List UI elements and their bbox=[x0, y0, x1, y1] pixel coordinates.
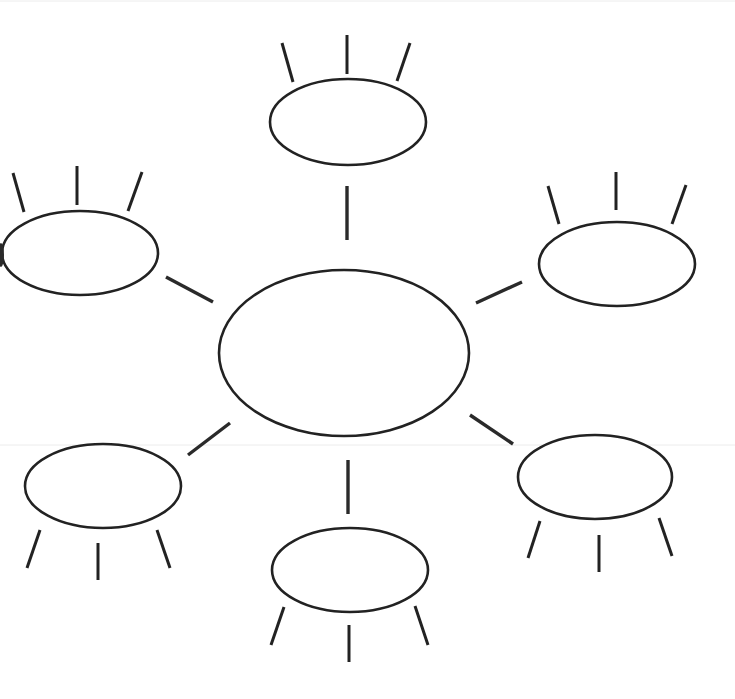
bubble-lower-left-oval[interactable] bbox=[25, 444, 181, 528]
spoke-top-1 bbox=[282, 43, 293, 82]
bubble-lower-right[interactable] bbox=[518, 435, 672, 519]
center-bubble-oval[interactable] bbox=[219, 270, 469, 436]
spoke-upper-left-3 bbox=[128, 172, 142, 211]
bubble-lower-left[interactable] bbox=[25, 444, 181, 528]
connector-upper-right bbox=[476, 282, 522, 303]
bubble-top[interactable] bbox=[270, 79, 426, 165]
center-bubble[interactable] bbox=[219, 270, 469, 436]
spoke-lower-left-1 bbox=[27, 530, 40, 568]
connector-upper-left bbox=[166, 277, 213, 302]
spoke-top-3 bbox=[397, 43, 410, 81]
bubble-upper-right[interactable] bbox=[539, 222, 695, 306]
bubble-upper-right-oval[interactable] bbox=[539, 222, 695, 306]
spoke-bottom-1 bbox=[271, 607, 284, 645]
bubble-map-diagram bbox=[0, 0, 735, 699]
spoke-upper-right-3 bbox=[672, 185, 686, 224]
spoke-upper-right-1 bbox=[548, 186, 559, 224]
bubble-upper-left[interactable] bbox=[2, 211, 158, 295]
spoke-lower-right-3 bbox=[659, 518, 672, 556]
spoke-upper-left-1 bbox=[13, 173, 24, 212]
spoke-lower-left-3 bbox=[157, 530, 170, 568]
bubbles bbox=[0, 79, 695, 612]
connector-lower-right bbox=[470, 415, 513, 444]
bubble-top-oval[interactable] bbox=[270, 79, 426, 165]
bubble-lower-right-oval[interactable] bbox=[518, 435, 672, 519]
bubble-upper-left-oval[interactable] bbox=[2, 211, 158, 295]
connector-lower-left bbox=[188, 423, 230, 455]
spoke-bottom-3 bbox=[415, 606, 428, 645]
bubble-bottom-oval[interactable] bbox=[272, 528, 428, 612]
bubble-bottom[interactable] bbox=[272, 528, 428, 612]
spoke-lower-right-1 bbox=[528, 521, 540, 558]
